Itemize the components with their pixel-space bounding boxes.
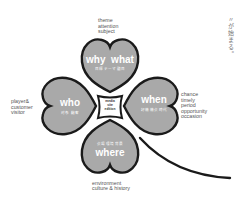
center-line-edition: edition	[99, 108, 121, 112]
leaf-right-shape	[124, 78, 178, 134]
leaf-bottom-title: where	[83, 147, 137, 158]
leaf-top-title: why what	[83, 54, 137, 65]
center-label: media site edition	[99, 100, 121, 111]
annotation-top: theme attention subject	[98, 18, 118, 35]
leaf-left-title: who	[50, 97, 90, 108]
leaf-right-title: when	[132, 94, 176, 105]
annotation-right: chance timely period opportunity occasio…	[181, 92, 207, 120]
leaf-top-subtitle: 目標 テーマ 題目	[85, 66, 135, 71]
annotation-bottom: environment culture & history	[92, 181, 130, 191]
annotation-left: player& customer visitor	[11, 99, 33, 116]
leaf-bottom-subtitle: 会場 環境 背景	[85, 141, 135, 146]
vertical-caption: 〃が始まる。	[226, 16, 235, 58]
clover-stem	[140, 138, 230, 178]
leaf-left-subtitle: 対象 顧客	[50, 110, 90, 115]
leaf-right-subtitle: 好機 機会 時代	[132, 107, 176, 112]
